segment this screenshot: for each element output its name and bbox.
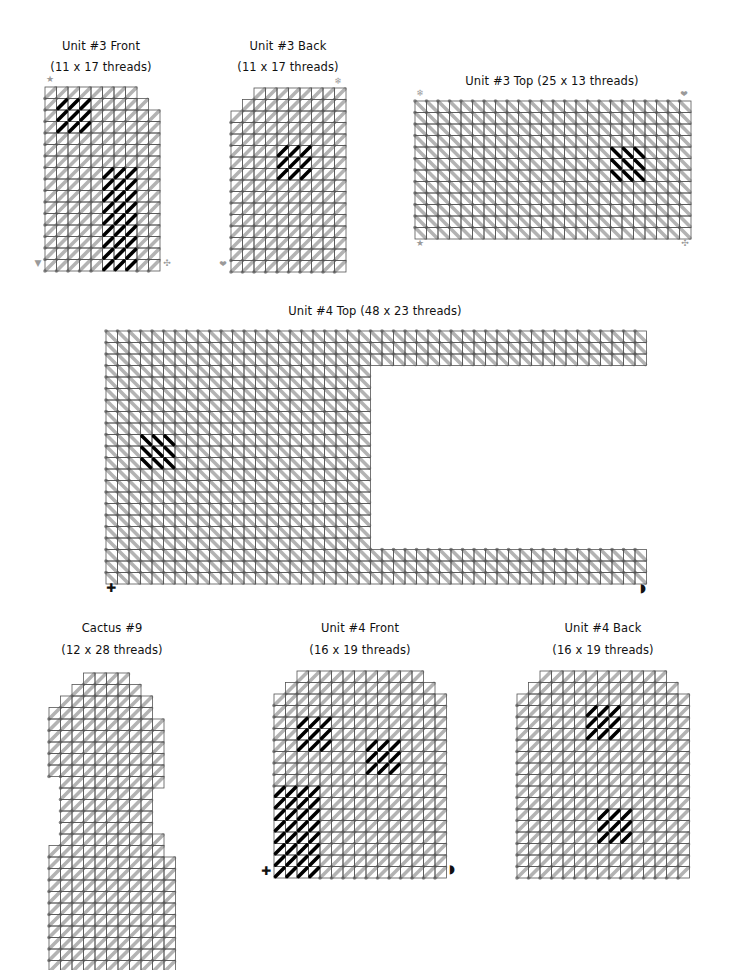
cross-marker-icon: ✚ xyxy=(261,867,271,876)
unit3-front-thread-count: (11 x 17 threads) xyxy=(50,60,151,74)
snowflake-marker-icon: ❄ xyxy=(334,77,342,86)
unit4-front-stitch-chart xyxy=(273,670,448,879)
unit3-top-stitch-chart xyxy=(414,100,692,240)
unit4-front-title: Unit #4 Front xyxy=(321,621,399,635)
half-circle-marker-icon: ◗ xyxy=(640,584,646,593)
unit3-back-thread-count: (11 x 17 threads) xyxy=(237,60,338,74)
cactus-9-stitch-chart xyxy=(48,672,177,970)
unit4-back-title: Unit #4 Back xyxy=(565,621,642,635)
star-marker-icon: ★ xyxy=(46,75,54,84)
cross-marker-icon: ✚ xyxy=(106,584,116,593)
triangle-marker-icon: ▼ xyxy=(35,259,42,268)
flower-marker-icon: ✣ xyxy=(163,259,171,268)
heart-marker-icon: ❤ xyxy=(680,90,688,99)
cactus-9-thread-count: (12 x 28 threads) xyxy=(61,643,162,657)
heart-marker-icon: ❤ xyxy=(219,260,227,269)
snowflake-marker-icon: ❄ xyxy=(416,89,424,98)
unit3-front-title: Unit #3 Front xyxy=(62,39,140,53)
unit3-back-stitch-chart xyxy=(230,87,347,273)
flower-marker-icon: ✣ xyxy=(681,239,689,248)
unit3-front-stitch-chart xyxy=(44,86,161,272)
star-marker-icon: ★ xyxy=(416,239,424,248)
unit3-top-title: Unit #3 Top (25 x 13 threads) xyxy=(465,74,638,88)
unit4-top-title: Unit #4 Top (48 x 23 threads) xyxy=(288,304,461,318)
unit4-back-stitch-chart xyxy=(516,670,691,879)
unit3-back-title: Unit #3 Back xyxy=(250,39,327,53)
unit4-top-stitch-chart xyxy=(105,330,648,585)
unit4-back-thread-count: (16 x 19 threads) xyxy=(552,643,653,657)
cactus-9-title: Cactus #9 xyxy=(82,621,143,635)
half-circle-marker-icon: ◗ xyxy=(449,865,455,874)
unit4-front-thread-count: (16 x 19 threads) xyxy=(309,643,410,657)
